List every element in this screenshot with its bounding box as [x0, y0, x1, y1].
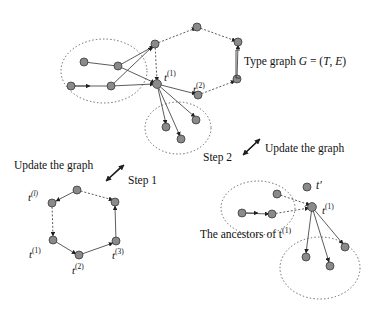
type-graph-g: G	[299, 55, 307, 67]
label-t1-hex-sup: (1)	[32, 246, 41, 255]
hexagon-edges	[52, 190, 116, 255]
label-tl-hex: t(l)	[28, 190, 38, 203]
type-graph-label: Type graph G = (T, E)	[244, 56, 346, 68]
label-t1-hex: t(1)	[29, 247, 41, 260]
left-ancestor-ellipse	[61, 39, 147, 103]
step2-label: Step 2	[203, 152, 232, 164]
label-t2-top-sup: (2)	[196, 81, 205, 90]
node-a1	[80, 58, 88, 66]
label-t2-hex-sup: (2)	[75, 262, 84, 271]
ancestors-sup: (1)	[282, 226, 291, 235]
node-d2	[177, 135, 185, 143]
node-t-prime	[303, 183, 311, 191]
step1-arrow	[106, 165, 124, 181]
ancestors-text: The ancestors of t	[200, 228, 282, 240]
node-c3	[341, 243, 349, 251]
node-c2	[326, 262, 334, 270]
node-t1-hex	[49, 236, 57, 244]
label-t2-top: t(2)	[193, 82, 205, 95]
ancestors-label: The ancestors of t(1)	[200, 227, 291, 240]
node-a2	[114, 62, 122, 70]
bottom-left-hexagon	[48, 186, 120, 259]
node-b3	[268, 210, 276, 218]
step2-arrow	[243, 139, 260, 155]
figure-canvas: Type graph G = (T, E) t(1) t(2) Update t…	[0, 0, 384, 311]
diagram-svg	[0, 0, 384, 311]
update-graph-left-text: Update the graph	[14, 159, 93, 171]
label-t1-top-sup: (1)	[167, 69, 176, 78]
label-t1-top: t(1)	[164, 70, 176, 83]
type-graph-eq: = (	[307, 55, 323, 67]
step1-text: Step 1	[128, 174, 157, 186]
node-t2-hex	[75, 251, 83, 259]
hexagon-nodes	[48, 186, 120, 259]
node-t1-bottom	[308, 203, 317, 212]
node-d3	[192, 116, 200, 124]
label-tl-sup: (l)	[31, 189, 38, 198]
update-graph-right-label: Update the graph	[265, 143, 344, 155]
label-t3-hex-sup: (3)	[115, 247, 124, 256]
label-t1-bottom: t(1)	[322, 203, 334, 216]
node-c1	[302, 253, 310, 261]
node-t1-top	[153, 80, 162, 89]
node-h1	[151, 40, 159, 48]
top-panel	[61, 23, 242, 154]
node-h2	[193, 23, 201, 31]
node-a3	[67, 82, 75, 90]
node-b2	[238, 209, 246, 217]
node-b1	[273, 190, 281, 198]
node-hex-top	[73, 186, 81, 194]
node-hex-right-top	[111, 198, 119, 206]
node-a4	[107, 82, 115, 90]
bottom-descendant-ellipse	[145, 102, 211, 154]
label-t-prime-mark: ′	[319, 179, 322, 191]
type-graph-close: )	[342, 55, 346, 67]
step1-label: Step 1	[128, 175, 157, 187]
step2-text: Step 2	[203, 151, 232, 163]
label-t1-bottom-sup: (1)	[325, 202, 334, 211]
node-t3	[112, 237, 120, 245]
node-d1	[162, 123, 170, 131]
node-tl	[48, 199, 56, 207]
type-graph-lead: Type graph	[244, 55, 299, 67]
label-t3-hex: t(3)	[112, 248, 124, 261]
node-h4	[233, 75, 241, 83]
top-nodes	[67, 23, 242, 143]
update-graph-left-label: Update the graph	[14, 160, 93, 172]
node-h3	[234, 38, 242, 46]
update-graph-right-text: Update the graph	[265, 142, 344, 154]
label-t-prime: t′	[316, 180, 322, 192]
label-t2-hex: t(2)	[72, 263, 84, 276]
